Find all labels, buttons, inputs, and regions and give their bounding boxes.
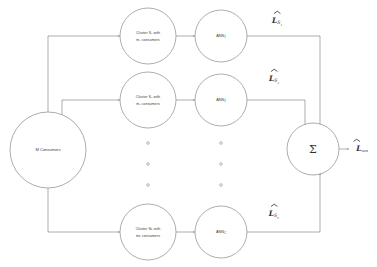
node-cluster-2-line1: Cluster S₂ with	[136, 95, 160, 99]
diagram-svg: M Consumers Cluster S₁ with m₁ consumers…	[0, 0, 377, 267]
ellipsis-dot-right-2	[220, 163, 223, 166]
ellipsis-dot-left-3	[147, 184, 150, 187]
svg-text:LSC: LSC	[268, 209, 279, 219]
edge-label-output-c: LSC	[268, 204, 279, 219]
svg-text:LSEM: LSEM	[355, 144, 368, 153]
svg-text:LS1: LS1	[271, 16, 282, 26]
node-cluster-1-line2: m₁ consumers	[136, 38, 160, 42]
ellipsis-dot-left-2	[147, 163, 150, 166]
edge-ann-1-to-sum	[247, 36, 320, 126]
node-cluster-2-line2: m₂ consumers	[136, 102, 160, 106]
node-cluster-2[interactable]	[120, 72, 176, 128]
svg-text:LS2: LS2	[268, 74, 279, 84]
node-cluster-c-line2: mᴄ consumers	[136, 234, 160, 238]
node-m-consumers-label: M Consumers	[36, 147, 61, 152]
diagram-canvas: M Consumers Cluster S₁ with m₁ consumers…	[0, 0, 377, 267]
node-cluster-1-line1: Cluster S₁ with	[136, 31, 160, 35]
node-cluster-c-line1: Cluster Sᴄ with	[136, 227, 161, 231]
edge-ann-c-to-sum	[247, 173, 320, 232]
node-summation-label: Σ	[309, 143, 317, 156]
ellipsis-dot-left-1	[147, 142, 150, 145]
final-output-label: LSEM	[354, 139, 369, 153]
node-cluster-1[interactable]	[120, 8, 176, 64]
edge-label-output-2: LS2	[268, 69, 279, 84]
node-cluster-c[interactable]	[120, 204, 176, 260]
edge-ann-2-to-sum	[247, 100, 305, 130]
ellipsis-dot-right-3	[220, 184, 223, 187]
edge-label-output-1: LS1	[271, 11, 282, 26]
ellipsis-dot-right-1	[220, 142, 223, 145]
